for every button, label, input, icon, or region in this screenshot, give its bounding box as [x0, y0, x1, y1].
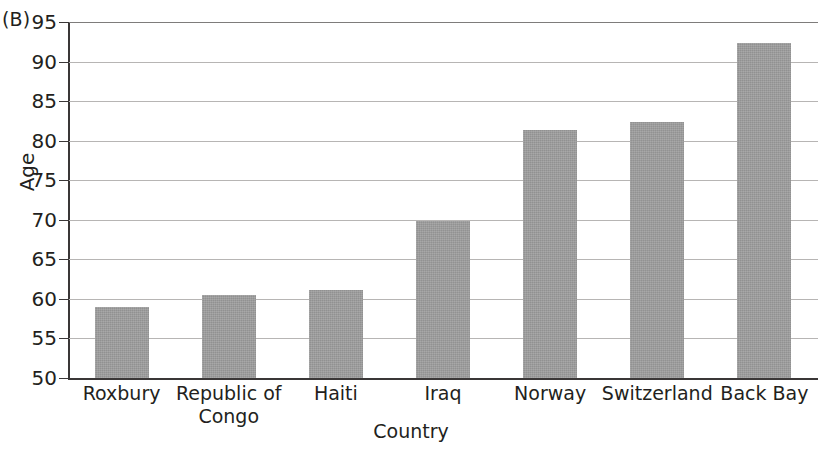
y-axis-tick-label: 60 — [11, 289, 57, 309]
y-axis-tick-label: 95 — [11, 12, 57, 32]
y-axis-tick — [59, 180, 69, 181]
y-axis-tick-label: 65 — [11, 249, 57, 269]
y-axis-tick-label: 50 — [11, 368, 57, 388]
x-axis-title: Country — [0, 420, 822, 442]
x-axis-line — [68, 378, 818, 380]
y-axis-tick-label: 90 — [11, 52, 57, 72]
bar — [416, 221, 470, 378]
y-axis-line — [68, 22, 70, 379]
y-axis-tick-label: 70 — [11, 210, 57, 230]
x-axis-category-label: Switzerland — [598, 382, 717, 405]
category-label-line: Haiti — [276, 382, 395, 405]
y-axis-tick — [59, 22, 69, 23]
gridline — [68, 22, 818, 23]
y-axis-tick — [59, 62, 69, 63]
x-axis-category-label: Iraq — [383, 382, 502, 405]
bar — [630, 122, 684, 378]
x-axis-category-label: Back Bay — [705, 382, 822, 405]
bar — [523, 130, 577, 378]
y-axis-tick — [59, 338, 69, 339]
y-axis-tick — [59, 101, 69, 102]
x-axis-category-label: Norway — [491, 382, 610, 405]
y-axis-tick-label: 75 — [11, 170, 57, 190]
y-axis-tick — [59, 220, 69, 221]
y-axis-tick — [59, 378, 69, 379]
plot-area — [68, 22, 818, 378]
bar — [202, 295, 256, 378]
gridline — [68, 180, 818, 181]
x-axis-category-label: Roxbury — [62, 382, 181, 405]
y-axis-tick-label: 80 — [11, 131, 57, 151]
category-label-line: Switzerland — [598, 382, 717, 405]
y-axis-tick — [59, 299, 69, 300]
y-axis-tick-label: 55 — [11, 328, 57, 348]
x-axis-category-label: Haiti — [276, 382, 395, 405]
gridline — [68, 101, 818, 102]
y-axis-tick — [59, 141, 69, 142]
category-label-line: Roxbury — [62, 382, 181, 405]
category-label-line: Iraq — [383, 382, 502, 405]
bar — [309, 290, 363, 378]
category-label-line: Norway — [491, 382, 610, 405]
category-label-line: Back Bay — [705, 382, 822, 405]
bar-chart-figure: (B) Age 50556065707580859095 RoxburyRepu… — [0, 0, 822, 450]
category-label-line: Republic of — [169, 382, 288, 405]
y-axis-tick-label: 85 — [11, 91, 57, 111]
gridline — [68, 141, 818, 142]
bar — [737, 43, 791, 378]
y-axis-tick — [59, 259, 69, 260]
bar — [95, 307, 149, 378]
gridline — [68, 62, 818, 63]
